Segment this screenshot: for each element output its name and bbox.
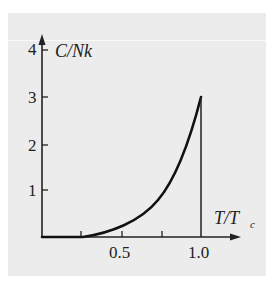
y-ticks (42, 50, 48, 190)
y-tick-label-4: 4 (28, 40, 37, 59)
heat-capacity-chart: 4 3 2 1 0.5 1.0 C/Nk T/T c (0, 0, 275, 285)
y-axis-title: C/Nk (55, 41, 93, 61)
y-tick-label-1: 1 (28, 181, 37, 200)
x-tick-label-1.0: 1.0 (188, 243, 209, 262)
x-axis-title: T/T (214, 208, 241, 228)
heat-capacity-curve (42, 97, 201, 237)
x-tick-label-0.5: 0.5 (109, 243, 130, 262)
y-tick-label-3: 3 (28, 88, 37, 107)
y-tick-label-2: 2 (28, 136, 37, 155)
x-axis-arrow-icon (230, 234, 241, 241)
y-axis-arrow-icon (39, 34, 46, 45)
x-axis-title-subscript: c (250, 218, 255, 230)
